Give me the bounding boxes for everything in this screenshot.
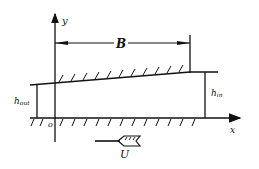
velocity-label: U	[120, 148, 130, 161]
slider-bearing-diagram: y B	[0, 0, 259, 169]
h-out-label: hout	[14, 96, 30, 106]
width-label: B	[115, 37, 126, 51]
velocity-arrow-icon	[95, 136, 140, 146]
origin-label: o	[48, 120, 53, 129]
bottom-wall	[30, 118, 240, 126]
y-axis-label: y	[61, 15, 68, 26]
h-in-label: hin	[211, 88, 223, 98]
x-axis-label: x	[230, 125, 235, 135]
